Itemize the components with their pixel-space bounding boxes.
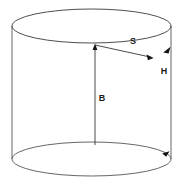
cylinder-top-ellipse [12, 9, 171, 43]
cylinder-diagram-canvas: S H B [0, 0, 183, 186]
height-top-arrow-head-icon [163, 47, 170, 54]
cylinder-bottom-ellipse [12, 142, 171, 176]
axis-arrow-head-icon [93, 44, 98, 51]
slant-measure-line [95, 45, 150, 57]
slant-arrow-head-icon [147, 54, 154, 60]
cylinder-diagram-figure: S H B [0, 0, 183, 186]
axis-label: B [99, 93, 106, 103]
slant-label: S [130, 36, 136, 46]
height-label: H [161, 66, 168, 76]
